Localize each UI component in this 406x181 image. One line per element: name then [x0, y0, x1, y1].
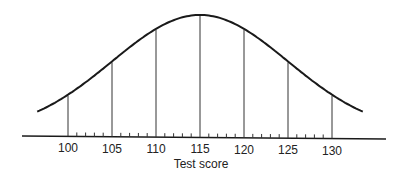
x-tick-label-100: 100: [58, 141, 78, 155]
x-tick-label-115: 115: [190, 142, 209, 156]
x-tick-label-105: 105: [102, 142, 122, 156]
x-tick-label-120: 120: [234, 143, 254, 157]
x-tick-label-110: 110: [146, 142, 165, 156]
vertical-score-lines: [68, 16, 332, 139]
x-tick-label-125: 125: [278, 143, 298, 157]
x-tick-label-130: 130: [322, 144, 342, 158]
x-axis-label: Test score: [174, 157, 229, 171]
